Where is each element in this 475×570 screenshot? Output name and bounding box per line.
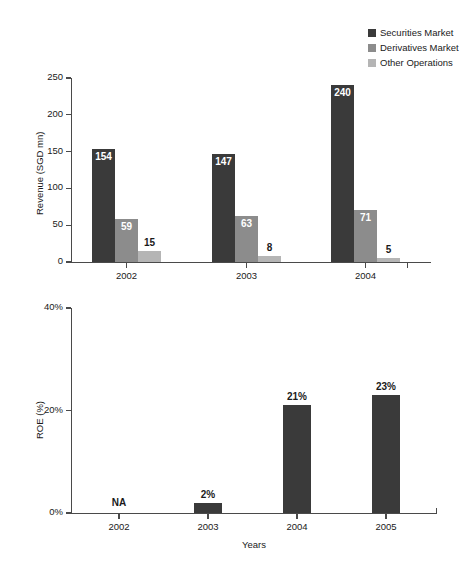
revenue-bar bbox=[92, 149, 115, 262]
revenue-y-tick-label: 0 bbox=[27, 255, 63, 266]
roe-bar-value-label: 23% bbox=[364, 381, 408, 392]
roe-x-axis-line bbox=[71, 513, 437, 514]
revenue-bar-value-label: 71 bbox=[354, 212, 377, 223]
revenue-x-tick-label: 2003 bbox=[217, 270, 277, 281]
roe-y-tick-label: 20% bbox=[27, 404, 63, 415]
roe-x-tick-label: 2004 bbox=[267, 521, 327, 532]
revenue-y-tick-label: 50 bbox=[27, 218, 63, 229]
revenue-y-tick-label: 150 bbox=[27, 145, 63, 156]
roe-x-tick-label: 2003 bbox=[178, 521, 238, 532]
revenue-bar bbox=[258, 256, 281, 262]
roe-bar bbox=[372, 395, 400, 513]
revenue-y-tick bbox=[66, 225, 71, 226]
revenue-bar-value-label: 154 bbox=[92, 151, 115, 162]
roe-x-tick-label: 2002 bbox=[89, 521, 149, 532]
revenue-bar bbox=[212, 154, 235, 262]
roe-x-tick bbox=[296, 514, 297, 519]
revenue-bar-value-label: 63 bbox=[235, 218, 258, 229]
revenue-bar-value-label: 240 bbox=[331, 87, 354, 98]
roe-bar-chart: ROE (%) Years 0%20%40%NA20022%200321%200… bbox=[0, 290, 475, 570]
roe-y-tick bbox=[66, 512, 71, 513]
revenue-bar-value-label: 5 bbox=[374, 244, 403, 255]
revenue-bar bbox=[331, 85, 354, 262]
revenue-y-tick bbox=[66, 261, 71, 262]
revenue-bar-value-label: 15 bbox=[135, 237, 164, 248]
revenue-bar-value-label: 8 bbox=[255, 242, 284, 253]
revenue-x-tick-label: 2004 bbox=[336, 270, 396, 281]
roe-x-tick bbox=[207, 514, 208, 519]
roe-x-axis-end-tick bbox=[436, 508, 437, 513]
revenue-y-tick bbox=[66, 151, 71, 152]
revenue-bar-value-label: 59 bbox=[115, 221, 138, 232]
revenue-x-tick bbox=[365, 263, 366, 268]
roe-bar-value-label: 21% bbox=[275, 391, 319, 402]
roe-x-tick bbox=[385, 514, 386, 519]
revenue-y-axis-line bbox=[71, 78, 72, 262]
revenue-bar bbox=[138, 251, 161, 262]
revenue-y-tick bbox=[66, 188, 71, 189]
revenue-y-tick bbox=[66, 114, 71, 115]
revenue-bar-chart: Revenue (SGD mn) 05010015020025015459152… bbox=[0, 0, 475, 290]
roe-y-tick bbox=[66, 307, 71, 308]
roe-bar bbox=[194, 503, 222, 513]
revenue-bar bbox=[377, 258, 400, 262]
roe-x-tick bbox=[118, 514, 119, 519]
revenue-x-tick-label: 2002 bbox=[97, 270, 157, 281]
revenue-x-tick bbox=[126, 263, 127, 268]
roe-bar-na-label: NA bbox=[97, 497, 141, 508]
revenue-x-axis-end-tick bbox=[407, 263, 408, 268]
revenue-x-tick bbox=[246, 263, 247, 268]
revenue-y-tick-label: 250 bbox=[27, 71, 63, 82]
roe-bar-value-label: 2% bbox=[186, 489, 230, 500]
revenue-and-roe-figure: Securities Market Derivatives Market Oth… bbox=[0, 0, 475, 570]
revenue-y-tick-label: 200 bbox=[27, 108, 63, 119]
revenue-bar-value-label: 147 bbox=[212, 156, 235, 167]
roe-bar bbox=[283, 405, 311, 513]
roe-x-tick-label: 2005 bbox=[356, 521, 416, 532]
revenue-y-tick bbox=[66, 77, 71, 78]
roe-x-axis-title: Years bbox=[194, 539, 314, 550]
revenue-y-tick-label: 100 bbox=[27, 181, 63, 192]
roe-y-tick-label: 0% bbox=[27, 506, 63, 517]
roe-y-tick bbox=[66, 410, 71, 411]
roe-y-tick-label: 40% bbox=[27, 301, 63, 312]
roe-y-axis-line bbox=[71, 308, 72, 513]
